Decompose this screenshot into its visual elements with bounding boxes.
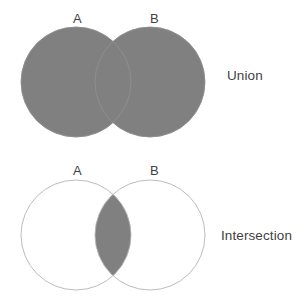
intersection-operation-label: Intersection <box>221 229 292 243</box>
venn-diagram-figure: A B Union A B Intersection <box>0 0 306 304</box>
union-set-a-label: A <box>73 12 82 25</box>
venn-diagram-canvas <box>0 0 306 304</box>
union-diagram-group <box>21 27 205 137</box>
intersection-diagram-group <box>21 180 205 290</box>
intersection-lens-fill <box>95 180 205 290</box>
union-set-b-label: B <box>150 12 159 25</box>
intersection-set-b-label: B <box>150 164 159 177</box>
intersection-set-a-label: A <box>73 164 82 177</box>
union-circle-b-fill <box>95 27 205 137</box>
union-operation-label: Union <box>227 69 263 83</box>
